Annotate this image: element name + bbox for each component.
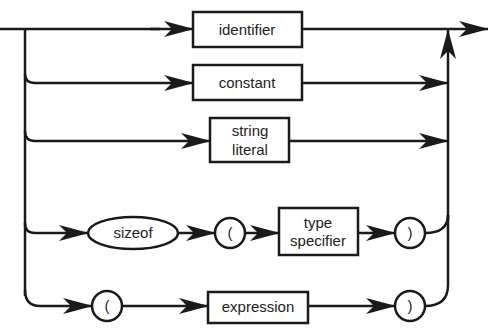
lparen1-label: ( xyxy=(228,224,233,241)
rparen1-return xyxy=(425,215,448,233)
syntax-diagram: identifier constant string literal sizeo… xyxy=(0,0,488,329)
type-specifier-label-line1: type xyxy=(304,214,332,231)
rparen2-label: ) xyxy=(408,297,413,314)
sizeof-label: sizeof xyxy=(113,224,153,241)
string-literal-label-line1: string xyxy=(232,122,269,139)
constant-label: constant xyxy=(219,74,277,91)
rparen2-return xyxy=(425,215,448,306)
lparen2-label: ( xyxy=(105,297,110,314)
type-specifier-label-line2: specifier xyxy=(290,232,346,249)
branch-string-literal xyxy=(25,131,210,141)
string-literal-label-line2: literal xyxy=(232,141,268,158)
rparen1-label: ) xyxy=(408,224,413,241)
expression-label: expression xyxy=(222,298,295,315)
branch-constant xyxy=(25,74,193,83)
identifier-label: identifier xyxy=(219,21,276,38)
branch-expression xyxy=(25,290,92,306)
branch-sizeof xyxy=(25,223,88,233)
